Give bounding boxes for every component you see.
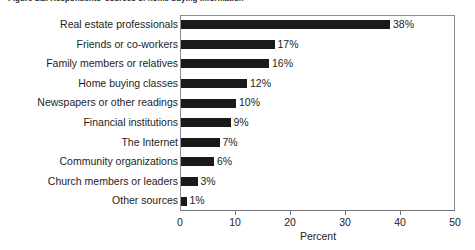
bar: [181, 157, 214, 166]
bar-row: Home buying classes12%: [0, 74, 475, 94]
category-label: Home buying classes: [78, 74, 178, 94]
category-label: Community organizations: [60, 152, 178, 172]
bar-row: Newspapers or other readings10%: [0, 93, 475, 113]
x-tick-label: 30: [330, 216, 360, 228]
category-label: Church members or leaders: [48, 172, 178, 192]
bar-row: Friends or co-workers17%: [0, 35, 475, 55]
x-tick-mark: [290, 211, 291, 215]
bar-value-label: 38%: [390, 15, 414, 35]
x-tick-label: 40: [385, 216, 415, 228]
bar-rows: Real estate professionals38%Friends or c…: [0, 15, 475, 211]
category-label: Friends or co-workers: [76, 35, 178, 55]
bar-value-label: 12%: [247, 74, 271, 94]
bar: [181, 79, 247, 88]
bar-value-label: 16%: [269, 54, 293, 74]
category-label: Newspapers or other readings: [37, 93, 178, 113]
x-tick-label: 20: [275, 216, 305, 228]
category-label: Family members or relatives: [46, 54, 178, 74]
bar-value-label: 17%: [275, 35, 299, 55]
bar: [181, 138, 220, 147]
bar-row: Other sources1%: [0, 191, 475, 211]
x-axis-title: Percent: [180, 230, 456, 242]
figure-root: Figure 3.2. Respondents' sources of home…: [0, 0, 475, 250]
bar-value-label: 10%: [236, 93, 260, 113]
bar-value-label: 3%: [198, 172, 216, 192]
category-label: Other sources: [112, 191, 178, 211]
bar: [181, 59, 269, 68]
category-label: Financial institutions: [83, 113, 178, 133]
bar-row: The Internet7%: [0, 133, 475, 153]
bar: [181, 99, 236, 108]
x-tick-mark: [235, 211, 236, 215]
bar-row: Family members or relatives16%: [0, 54, 475, 74]
category-label: Real estate professionals: [60, 15, 178, 35]
x-tick-label: 10: [220, 216, 250, 228]
bar: [181, 20, 390, 29]
bar-row: Church members or leaders3%: [0, 172, 475, 192]
bar-value-label: 1%: [187, 191, 205, 211]
bar-value-label: 9%: [231, 113, 249, 133]
bar: [181, 177, 198, 186]
x-tick-label: 50: [440, 216, 470, 228]
x-tick-mark: [345, 211, 346, 215]
x-tick-label: 0: [165, 216, 195, 228]
bar: [181, 118, 231, 127]
x-tick-mark: [400, 211, 401, 215]
bar-value-label: 6%: [214, 152, 232, 172]
category-label: The Internet: [121, 133, 178, 153]
bar-row: Real estate professionals38%: [0, 15, 475, 35]
bar-row: Financial institutions9%: [0, 113, 475, 133]
bar-value-label: 7%: [220, 133, 238, 153]
figure-caption: Figure 3.2. Respondents' sources of home…: [8, 0, 308, 5]
bar: [181, 40, 275, 49]
bar-row: Community organizations6%: [0, 152, 475, 172]
